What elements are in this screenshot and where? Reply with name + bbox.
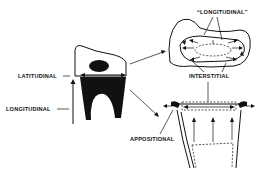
longitudinal-top-leader-1 (204, 17, 213, 35)
growth-diagram: LATITUDINAL LONGITUDINAL “LONGITUDINAL” … (0, 0, 261, 174)
top-view-arrows (182, 39, 244, 61)
tooth-root-dark (80, 77, 126, 120)
pointer-arrow-bottom (130, 90, 159, 117)
root-view (163, 101, 255, 168)
pulp-chamber (89, 60, 109, 72)
label-interstitial: INTERSTITIAL (189, 73, 230, 79)
label-longitudinal-quoted: “LONGITUDINAL” (197, 9, 248, 15)
label-latitudinal: LATITUDINAL (18, 73, 57, 79)
appositional-leader (160, 110, 173, 134)
label-longitudinal: LONGITUDINAL (6, 106, 51, 112)
interstitial-leader-2 (222, 63, 226, 72)
label-appositional: APPOSITIONAL (130, 136, 175, 142)
longitudinal-arrow (71, 79, 76, 124)
top-view-dashed-core (195, 44, 231, 56)
longitudinal-top-leader-2 (217, 17, 222, 40)
pointer-arrow-top (130, 50, 166, 64)
